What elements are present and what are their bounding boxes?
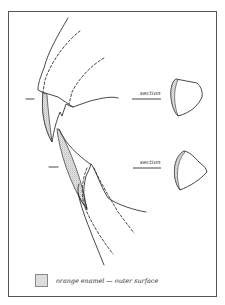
- upper-section-shape: [171, 79, 202, 116]
- section-label-lower: section: [140, 159, 161, 165]
- upper-tooth: [26, 18, 118, 142]
- lower-section-shape: [174, 151, 207, 190]
- enamel-swatch-icon: [35, 274, 48, 287]
- legend-label: orange enamel — outer surface: [56, 277, 158, 285]
- tooth-illustration: [0, 0, 225, 305]
- legend: orange enamel — outer surface: [35, 274, 158, 287]
- lower-tooth: [49, 129, 146, 265]
- section-label-upper: section: [140, 90, 161, 96]
